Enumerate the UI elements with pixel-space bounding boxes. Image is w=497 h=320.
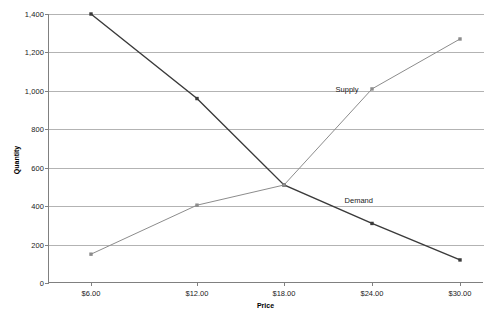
- x-axis-tick-label: $12.00: [186, 289, 209, 298]
- series-line-supply: [91, 39, 460, 254]
- y-axis-tick-label: 1,000: [25, 86, 44, 95]
- y-axis-tick-label: 1,400: [25, 10, 44, 19]
- plot-area: 02004006008001,0001,2001,400 $6.00$12.00…: [48, 14, 483, 283]
- data-point-marker: [370, 222, 373, 225]
- y-axis-title: Quantity: [13, 146, 20, 174]
- y-tick-mark: [45, 283, 49, 284]
- data-point-marker: [370, 87, 373, 90]
- y-axis-tick-label: 600: [31, 163, 44, 172]
- y-axis-tick-label: 800: [31, 125, 44, 134]
- data-point-marker: [89, 12, 92, 15]
- series-line-demand: [91, 14, 460, 260]
- y-axis-tick-label: 400: [31, 202, 44, 211]
- data-point-marker: [195, 203, 198, 206]
- x-axis-tick-label: $24.00: [361, 289, 384, 298]
- y-axis-tick-label: 1,200: [25, 48, 44, 57]
- x-axis-tick-label: $18.00: [273, 289, 296, 298]
- x-axis-tick-label: $30.00: [449, 289, 472, 298]
- y-axis-tick-label: 0: [40, 279, 44, 288]
- data-point-marker: [195, 97, 198, 100]
- series-layer: [49, 14, 484, 283]
- x-axis-title: Price: [48, 302, 483, 309]
- series-label-supply: Supply: [336, 84, 359, 93]
- y-axis-tick-label: 200: [31, 240, 44, 249]
- data-point-marker: [282, 183, 285, 186]
- data-point-marker: [458, 258, 461, 261]
- data-point-marker: [458, 37, 461, 40]
- data-point-marker: [89, 252, 92, 255]
- x-axis-tick-label: $6.00: [82, 289, 101, 298]
- series-label-demand: Demand: [345, 196, 373, 205]
- supply-demand-chart: Quantity Price 02004006008001,0001,2001,…: [0, 0, 497, 320]
